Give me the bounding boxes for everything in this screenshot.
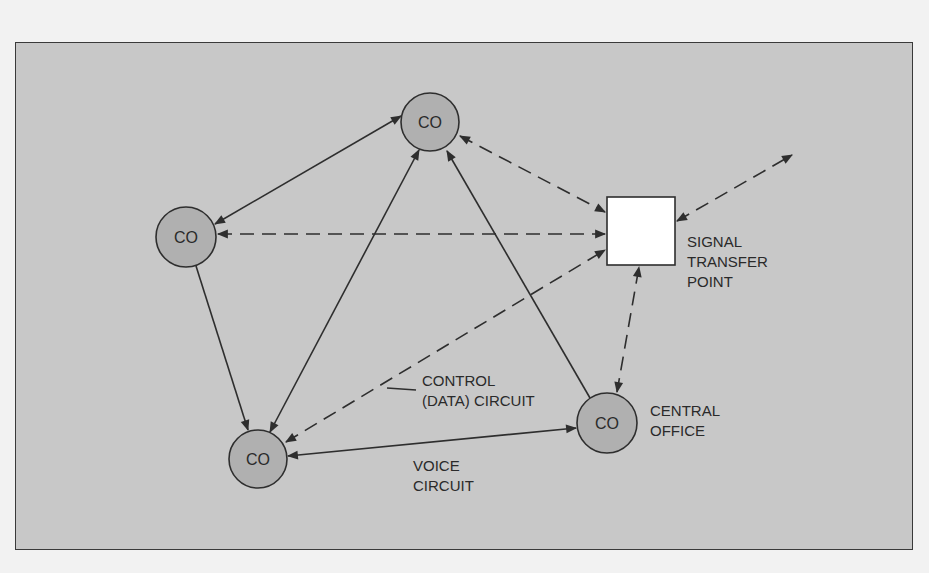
- control-caption-line1: CONTROL: [422, 372, 495, 389]
- co-node-bottom-right: CO: [577, 393, 637, 453]
- edge-co-bottom-right-to-co-top: [447, 151, 590, 398]
- stp-caption-line2: TRANSFER: [687, 253, 768, 270]
- co-node-top-label: CO: [418, 114, 442, 131]
- co-node-bottom-right-label: CO: [595, 415, 619, 432]
- signal-transfer-point-box: [607, 197, 675, 265]
- voice-caption-line2: CIRCUIT: [413, 477, 474, 494]
- co-node-left: CO: [156, 207, 216, 267]
- stp-caption: SIGNAL TRANSFER POINT: [687, 233, 768, 290]
- edge-co-left-to-co-bottom-left: [196, 266, 248, 430]
- edge-co-bottom-left-to-stp: [286, 250, 605, 442]
- control-label-leader: [387, 388, 416, 390]
- co-node-bottom-left: CO: [229, 430, 287, 488]
- edge-co-left-to-co-top: [215, 116, 401, 224]
- co-node-top: CO: [401, 93, 459, 151]
- central-office-caption-line1: CENTRAL: [650, 402, 720, 419]
- control-circuit-caption: CONTROL (DATA) CIRCUIT: [422, 372, 535, 409]
- stp-caption-line1: SIGNAL: [687, 233, 742, 250]
- network-diagram: CO CO CO CO SIGNAL TRANSFER POINT CENTRA…: [0, 0, 929, 573]
- edge-co-top-to-stp: [460, 136, 605, 212]
- central-office-caption-line2: OFFICE: [650, 422, 705, 439]
- voice-caption-line1: VOICE: [413, 457, 460, 474]
- control-caption-line2: (DATA) CIRCUIT: [422, 392, 535, 409]
- co-node-bottom-left-label: CO: [246, 451, 270, 468]
- edge-co-bottom-right-to-stp: [617, 267, 639, 392]
- stp-caption-line3: POINT: [687, 273, 733, 290]
- edge-stp-to-external: [677, 155, 792, 221]
- edge-co-bottom-left-to-co-bottom-right: [288, 428, 576, 456]
- co-node-left-label: CO: [174, 229, 198, 246]
- voice-circuit-caption: VOICE CIRCUIT: [413, 457, 474, 494]
- central-office-caption: CENTRAL OFFICE: [650, 402, 720, 439]
- edge-co-bottom-left-to-co-top: [270, 150, 419, 432]
